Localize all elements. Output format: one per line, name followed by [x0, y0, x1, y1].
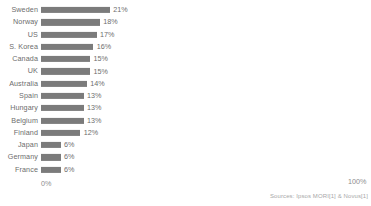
- value-label: 12%: [80, 129, 98, 137]
- bar: [41, 56, 90, 62]
- category-label: Canada: [0, 55, 38, 63]
- bar-row: UK15%: [0, 65, 371, 77]
- value-label: 15%: [90, 55, 108, 63]
- category-label: S. Korea: [0, 43, 38, 51]
- value-label: 6%: [61, 141, 75, 149]
- bar-track: 21%: [41, 7, 368, 13]
- bar-row: Finland12%: [0, 127, 371, 139]
- bar: [41, 32, 97, 38]
- bar-row: Canada15%: [0, 53, 371, 65]
- bar-row: Norway18%: [0, 16, 371, 28]
- value-label: 21%: [110, 6, 128, 14]
- category-label: Hungary: [0, 104, 38, 112]
- bar-row: Belgium13%: [0, 114, 371, 126]
- bar-track: 18%: [41, 19, 368, 25]
- category-label: Finland: [0, 129, 38, 137]
- value-label: 17%: [97, 31, 115, 39]
- bar-row: Sweden21%: [0, 4, 371, 16]
- bar-track: 14%: [41, 81, 368, 87]
- value-label: 13%: [84, 104, 102, 112]
- bar-track: 17%: [41, 32, 368, 38]
- bar: [41, 93, 84, 99]
- bar-track: 6%: [41, 142, 368, 148]
- bar: [41, 68, 90, 74]
- bar-row: Spain13%: [0, 90, 371, 102]
- bar-track: 13%: [41, 93, 368, 99]
- bar-track: 16%: [41, 44, 368, 50]
- category-label: Australia: [0, 80, 38, 88]
- value-label: 15%: [90, 67, 108, 75]
- bar-track: 12%: [41, 130, 368, 136]
- category-label: Sweden: [0, 6, 38, 14]
- bar: [41, 7, 110, 13]
- bar-track: 6%: [41, 154, 368, 160]
- bar-track: 15%: [41, 68, 368, 74]
- bar: [41, 142, 61, 148]
- category-label: Belgium: [0, 117, 38, 125]
- category-label: France: [0, 166, 38, 174]
- category-label: Spain: [0, 92, 38, 100]
- bar-track: 6%: [41, 166, 368, 172]
- value-label: 18%: [100, 18, 118, 26]
- value-label: 6%: [61, 166, 75, 174]
- bar: [41, 166, 61, 172]
- axis-tick-max: 100%: [348, 178, 366, 186]
- bar-track: 13%: [41, 105, 368, 111]
- bar: [41, 117, 84, 123]
- category-label: UK: [0, 67, 38, 75]
- category-label: US: [0, 31, 38, 39]
- bar-row: Japan6%: [0, 139, 371, 151]
- bar-row: S. Korea16%: [0, 41, 371, 53]
- value-label: 16%: [93, 43, 111, 51]
- bar-row: US17%: [0, 29, 371, 41]
- value-label: 6%: [61, 153, 75, 161]
- source-attribution: Sources: Ipsos MORI[1] & Novus[1]: [270, 192, 368, 200]
- bar: [41, 154, 61, 160]
- bar-track: 13%: [41, 117, 368, 123]
- category-label: Norway: [0, 18, 38, 26]
- bar: [41, 130, 80, 136]
- axis-tick-min: 0%: [41, 180, 51, 188]
- value-label: 13%: [84, 117, 102, 125]
- bar: [41, 19, 100, 25]
- bar: [41, 81, 87, 87]
- bar-row: Hungary13%: [0, 102, 371, 114]
- bar: [41, 105, 84, 111]
- category-label: Japan: [0, 141, 38, 149]
- bar-row: Germany6%: [0, 151, 371, 163]
- value-label: 13%: [84, 92, 102, 100]
- bar-chart: Sweden21%Norway18%US17%S. Korea16%Canada…: [0, 0, 371, 206]
- plot-area: Sweden21%Norway18%US17%S. Korea16%Canada…: [0, 4, 371, 176]
- category-label: Germany: [0, 153, 38, 161]
- bar-row: France6%: [0, 163, 371, 175]
- value-label: 14%: [87, 80, 105, 88]
- bar: [41, 44, 93, 50]
- bar-track: 15%: [41, 56, 368, 62]
- bar-row: Australia14%: [0, 78, 371, 90]
